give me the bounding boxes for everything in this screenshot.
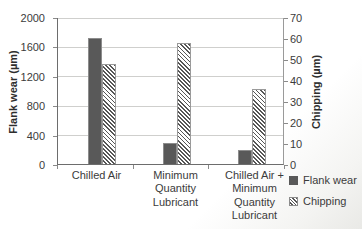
legend-label: Flank wear <box>303 174 357 186</box>
right-axis-tickmark <box>284 102 288 103</box>
left-axis-tick-label: 800 <box>27 100 45 112</box>
bar-group <box>58 18 133 164</box>
right-axis-tick-label: 60 <box>290 33 302 45</box>
category-axis-labels: Chilled AirMinimum Quantity LubricantChi… <box>57 169 294 223</box>
chart-legend: Flank wearChipping <box>289 174 357 207</box>
right-axis-tick-label: 50 <box>290 54 302 66</box>
category-label: Chilled Air <box>57 169 136 223</box>
legend-item-chipping: Chipping <box>289 195 357 207</box>
chart-figure: Flank wear (µm) Chipping (µm) 2000160012… <box>0 0 362 229</box>
left-axis-tickmark <box>53 106 57 107</box>
left-axis-tick-label: 2000 <box>21 12 45 24</box>
legend-swatch-hatched-icon <box>289 197 298 206</box>
left-axis-tick-label: 0 <box>39 159 45 171</box>
right-axis-tickmark <box>284 18 288 19</box>
bar-chipping <box>177 43 191 164</box>
bar-flank-wear <box>238 150 252 164</box>
left-axis-tickmark <box>53 136 57 137</box>
right-axis-tickmark <box>284 39 288 40</box>
bar-group <box>208 18 283 164</box>
legend-swatch-solid-icon <box>289 176 298 185</box>
right-axis-tick-label: 70 <box>290 12 302 24</box>
left-axis-tickmark <box>53 77 57 78</box>
left-axis-tick-label: 1200 <box>21 71 45 83</box>
category-label: Minimum Quantity Lubricant <box>136 169 215 223</box>
bar-flank-wear <box>163 143 177 164</box>
left-axis-tick-label: 400 <box>27 130 45 142</box>
right-axis-tick-label: 10 <box>290 138 302 150</box>
right-axis-tickmark <box>284 60 288 61</box>
bar-flank-wear <box>88 38 102 164</box>
left-axis-tickmark <box>53 47 57 48</box>
right-axis-tickmark <box>284 144 288 145</box>
legend-item-flank-wear: Flank wear <box>289 174 357 186</box>
legend-label: Chipping <box>303 195 346 207</box>
right-axis-tick-label: 40 <box>290 75 302 87</box>
bar-chipping <box>102 64 116 164</box>
right-axis-tick-labels: 706050403020100 <box>290 18 320 165</box>
bar-chipping <box>252 89 266 164</box>
right-axis-tickmark <box>284 123 288 124</box>
category-label: Chilled Air + Minimum Quantity Lubricant <box>215 169 294 223</box>
right-axis-tick-label: 30 <box>290 96 302 108</box>
plot-area <box>57 18 284 165</box>
bar-groups <box>58 18 283 164</box>
right-axis-tick-label: 20 <box>290 117 302 129</box>
left-axis-tick-labels: 2000160012008004000 <box>0 18 52 165</box>
left-axis-tick-label: 1600 <box>21 41 45 53</box>
left-axis-tickmark <box>53 18 57 19</box>
bar-group <box>133 18 208 164</box>
right-axis-tickmark <box>284 81 288 82</box>
